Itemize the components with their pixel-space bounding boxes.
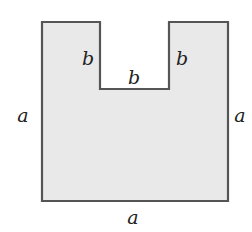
label-left-side: a (17, 104, 28, 126)
label-notch-right: b (176, 47, 188, 69)
label-bottom-side: a (127, 206, 138, 228)
label-notch-left: b (82, 47, 94, 69)
label-notch-bottom: b (128, 66, 140, 88)
notched-square-shape (42, 22, 228, 201)
label-right-side: a (234, 104, 245, 126)
notched-square-diagram: b b b a a a (0, 0, 252, 232)
